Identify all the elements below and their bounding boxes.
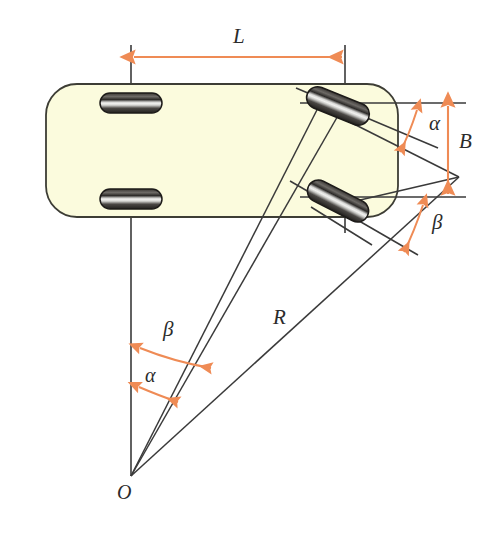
beta-front-arc	[404, 205, 423, 252]
alpha-front-arc	[400, 110, 417, 152]
label-radius-R: R	[273, 307, 286, 328]
label-track-B: B	[459, 131, 472, 152]
label-beta-front: β	[432, 212, 442, 233]
rear-left-tire	[100, 93, 162, 113]
label-wheelbase-L: L	[233, 26, 245, 47]
front-angle-arcs	[400, 110, 423, 252]
label-centre-O: O	[117, 482, 131, 502]
figure-canvas: L B R O α β β α	[0, 0, 494, 534]
label-beta-centre: β	[163, 319, 173, 340]
ray-turn-radius-R	[131, 177, 459, 476]
label-alpha-centre: α	[145, 365, 156, 385]
label-alpha-front: α	[429, 113, 440, 134]
steering-geometry-svg	[0, 0, 494, 534]
rear-right-tire	[100, 189, 162, 209]
